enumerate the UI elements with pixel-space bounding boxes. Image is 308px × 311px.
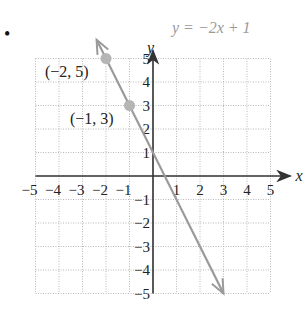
equation-label: y = −2x + 1: [170, 19, 251, 37]
y-tick-label: −5: [134, 286, 150, 302]
graph-line: [97, 40, 224, 294]
y-tick-label: 1: [143, 145, 151, 161]
x-tick-label: −4: [45, 182, 61, 198]
point-label: (−2, 5): [45, 63, 89, 81]
x-tick-label: 2: [196, 182, 204, 198]
y-tick-label: −4: [134, 262, 150, 278]
x-tick-label: −5: [22, 182, 38, 198]
data-point: [101, 53, 112, 64]
y-tick-label: −2: [134, 215, 150, 231]
y-tick-label: 5: [143, 51, 151, 67]
y-tick-label: −1: [134, 192, 150, 208]
x-tick-label: −1: [116, 182, 132, 198]
x-tick-label: 3: [220, 182, 228, 198]
y-tick-label: 3: [143, 98, 151, 114]
x-tick-label: −3: [69, 182, 85, 198]
x-tick-label: −2: [92, 182, 108, 198]
x-tick-label: 4: [243, 182, 251, 198]
y-tick-label: −3: [134, 239, 150, 255]
y-tick-label: 4: [143, 74, 151, 90]
data-point: [124, 100, 135, 111]
x-axis-label: x: [295, 167, 303, 184]
line-graph: xy−5−4−3−2−11234554321−1−2−3−4−5(−2, 5)(…: [0, 0, 308, 311]
x-tick-label: 5: [267, 182, 275, 198]
point-label: (−1, 3): [70, 110, 114, 128]
